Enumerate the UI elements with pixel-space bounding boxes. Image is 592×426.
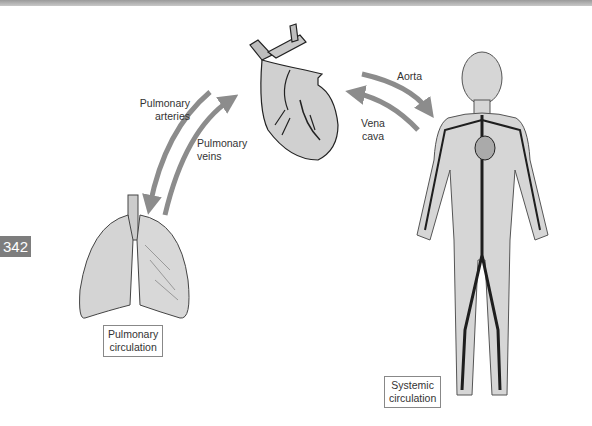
label-line: veins [197,150,247,163]
human-body-illustration [417,52,548,395]
label-line: Pulmonary [120,97,190,110]
label-line: circulation [108,341,158,354]
heart-illustration [250,24,338,160]
pulmonary-veins-label: Pulmonary veins [197,137,247,163]
pulmonary-arteries-label: Pulmonary arteries [120,97,190,123]
systemic-circulation-box: Systemic circulation [384,376,441,408]
label-line: Pulmonary [108,328,158,341]
label-line: Vena [361,117,385,130]
aorta-label: Aorta [397,70,422,83]
label-line: Systemic [389,379,436,392]
label-line: arteries [120,110,190,123]
label-line: cava [361,130,385,143]
pulmonary-circulation-box: Pulmonary circulation [103,325,163,357]
lungs-illustration [80,195,189,318]
circulation-diagram [0,0,592,426]
label-line: Pulmonary [197,137,247,150]
label-line: circulation [389,392,436,405]
vena-cava-label: Vena cava [361,117,385,143]
